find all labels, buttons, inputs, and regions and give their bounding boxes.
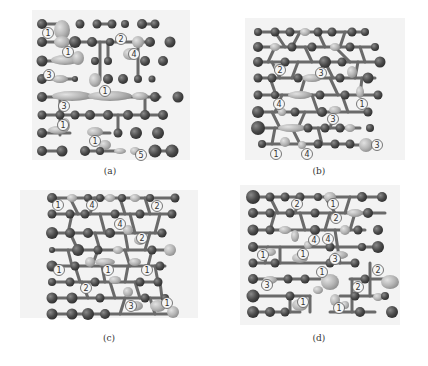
svg-text:4: 4 [325, 235, 330, 244]
site-label-a-0: 1 [43, 28, 54, 39]
svg-text:1: 1 [260, 251, 265, 260]
svg-text:2: 2 [375, 266, 380, 275]
site-label-b-5: 3 [372, 140, 383, 151]
site-label-a-1: 1 [63, 47, 74, 58]
svg-text:1: 1 [56, 266, 61, 275]
svg-text:1: 1 [60, 121, 65, 130]
site-label-c-8: 2 [81, 283, 92, 294]
site-label-d-5: 1 [258, 250, 269, 261]
site-label-c-4: 2 [137, 233, 148, 244]
svg-text:3: 3 [374, 141, 379, 150]
svg-text:2: 2 [83, 284, 88, 293]
site-label-c-9: 3 [126, 301, 137, 312]
site-label-a-9: 5 [136, 150, 147, 161]
svg-text:1: 1 [55, 201, 60, 210]
site-label-c-6: 1 [103, 265, 114, 276]
site-label-d-10: 3 [262, 280, 273, 291]
site-label-b-4: 3 [328, 114, 339, 125]
site-label-a-6: 3 [59, 101, 70, 112]
site-label-b-0: 2 [275, 65, 286, 76]
svg-text:3: 3 [318, 69, 323, 78]
svg-text:1: 1 [300, 298, 305, 307]
site-label-c-2: 2 [152, 201, 163, 212]
site-label-a-4: 3 [44, 70, 55, 81]
svg-text:4: 4 [89, 201, 94, 210]
site-label-d-6: 1 [298, 249, 309, 260]
site-label-d-8: 1 [317, 267, 328, 278]
site-label-b-7: 4 [302, 149, 313, 160]
site-label-c-3: 4 [115, 219, 126, 230]
panel-c-structure [46, 193, 180, 320]
site-label-c-7: 1 [142, 265, 153, 276]
site-label-b-6: 1 [271, 149, 282, 160]
svg-text:2: 2 [333, 214, 338, 223]
svg-text:4: 4 [311, 236, 316, 245]
svg-text:1: 1 [164, 299, 169, 308]
svg-text:1: 1 [92, 137, 97, 146]
svg-text:4: 4 [276, 100, 281, 109]
svg-text:3: 3 [264, 281, 269, 290]
svg-text:1: 1 [300, 250, 305, 259]
svg-text:5: 5 [138, 151, 143, 160]
site-label-a-2: 2 [116, 34, 127, 45]
site-label-a-7: 1 [58, 120, 69, 131]
site-label-c-5: 1 [54, 265, 65, 276]
svg-text:1: 1 [336, 304, 341, 313]
site-label-d-0: 2 [292, 199, 303, 210]
site-label-d-3: 4 [309, 235, 320, 246]
site-label-a-3: 4 [129, 49, 140, 60]
site-label-c-0: 1 [53, 200, 64, 211]
svg-text:3: 3 [128, 302, 133, 311]
site-label-d-4: 4 [323, 234, 334, 245]
svg-text:2: 2 [139, 234, 144, 243]
svg-text:3: 3 [46, 71, 51, 80]
svg-text:1: 1 [102, 87, 107, 96]
caption-b: (b) [299, 166, 339, 176]
svg-text:2: 2 [154, 202, 159, 211]
site-label-a-8: 1 [90, 136, 101, 147]
svg-text:1: 1 [105, 266, 110, 275]
svg-text:2: 2 [294, 200, 299, 209]
site-label-d-7: 3 [330, 254, 341, 265]
structure-canvas: 1124313115234133141424211123121244113123… [0, 0, 428, 366]
svg-text:4: 4 [131, 50, 136, 59]
panel-b-structure [251, 28, 386, 153]
caption-a: (a) [90, 166, 130, 176]
svg-text:1: 1 [359, 100, 364, 109]
svg-text:2: 2 [118, 35, 123, 44]
site-label-a-5: 1 [100, 86, 111, 97]
site-label-d-12: 1 [298, 297, 309, 308]
svg-text:1: 1 [144, 266, 149, 275]
site-label-d-9: 2 [373, 265, 384, 276]
site-label-b-1: 3 [316, 68, 327, 79]
svg-text:3: 3 [332, 255, 337, 264]
site-label-d-11: 2 [353, 282, 364, 293]
svg-text:2: 2 [355, 283, 360, 292]
svg-text:1: 1 [273, 150, 278, 159]
caption-c: (c) [89, 333, 129, 343]
site-label-c-10: 1 [162, 298, 173, 309]
site-label-d-1: 1 [328, 199, 339, 210]
svg-text:1: 1 [65, 48, 70, 57]
svg-text:2: 2 [277, 66, 282, 75]
panel-d-structure [246, 190, 399, 318]
svg-text:1: 1 [330, 200, 335, 209]
site-label-c-1: 4 [87, 200, 98, 211]
svg-text:4: 4 [117, 220, 122, 229]
caption-d: (d) [299, 333, 339, 343]
site-label-d-2: 2 [331, 213, 342, 224]
svg-text:3: 3 [61, 102, 66, 111]
site-label-b-3: 1 [357, 99, 368, 110]
svg-text:1: 1 [45, 29, 50, 38]
site-label-d-13: 1 [334, 303, 345, 314]
svg-text:3: 3 [330, 115, 335, 124]
site-label-b-2: 4 [274, 99, 285, 110]
svg-text:1: 1 [319, 268, 324, 277]
svg-text:4: 4 [304, 150, 309, 159]
